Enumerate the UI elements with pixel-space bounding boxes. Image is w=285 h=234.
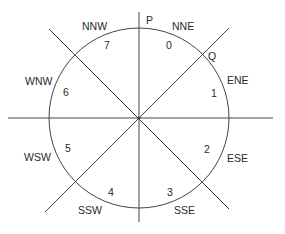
- sector-4: 4: [108, 186, 114, 198]
- direction-ene: ENE: [227, 74, 249, 86]
- sector-5: 5: [65, 142, 71, 154]
- sector-3: 3: [167, 186, 173, 198]
- direction-ese: ESE: [227, 152, 248, 164]
- sector-1: 1: [211, 87, 217, 99]
- sector-7: 7: [104, 39, 110, 51]
- diagonal-ne-sw: [45, 28, 229, 212]
- direction-ssw: SSW: [78, 204, 102, 216]
- sector-6: 6: [63, 86, 69, 98]
- direction-wsw: WSW: [24, 151, 51, 163]
- center-point: [138, 117, 141, 120]
- point-label-p: P: [146, 14, 153, 26]
- direction-sse: SSE: [174, 204, 195, 216]
- sector-2: 2: [204, 143, 210, 155]
- direction-nne: NNE: [172, 20, 194, 32]
- point-label-q: Q: [208, 50, 216, 62]
- direction-nnw: NNW: [82, 20, 107, 32]
- compass-diagram: P Q NNE ENE ESE SSE SSW WSW WNW NNW 0 1 …: [0, 0, 285, 234]
- sector-0: 0: [166, 39, 172, 51]
- direction-wnw: WNW: [25, 75, 52, 87]
